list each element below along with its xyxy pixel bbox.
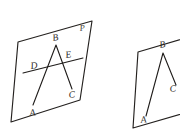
- label-d: D: [29, 60, 38, 71]
- canvas-background: [0, 0, 180, 135]
- geometry-diagram-canvas: P B E D C A B C A: [0, 0, 180, 135]
